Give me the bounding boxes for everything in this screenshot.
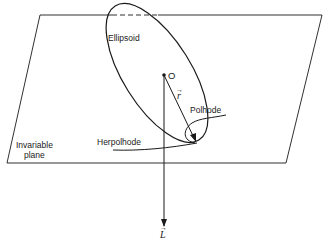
polhode-label: Polhode <box>190 105 221 115</box>
polhode-curve <box>185 115 226 143</box>
herpolhode-label: Herpolhode <box>97 137 141 147</box>
origin-point <box>162 73 166 77</box>
origin-label: O <box>168 70 175 81</box>
poinsot-diagram: Ellipsoid O r → Polhode Herpolhode Invar… <box>0 0 327 245</box>
r-vector-accent: → <box>176 86 183 93</box>
invariable-plane-label-line2: plane <box>24 150 45 160</box>
ellipsoid-label: Ellipsoid <box>108 33 140 43</box>
invariable-plane-label-line1: Invariable <box>16 140 53 150</box>
r-arrowhead-icon <box>190 133 196 142</box>
ellipsoid <box>86 0 227 158</box>
L-vector-label: L <box>159 229 166 240</box>
